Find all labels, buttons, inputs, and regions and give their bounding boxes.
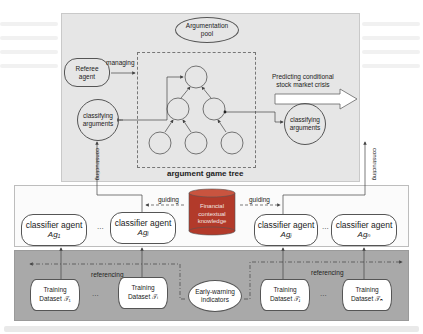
agent-id: Agⱼ <box>281 230 292 240</box>
dataset-line2: Dataset 𝒯₁ <box>39 295 70 302</box>
pool-line1: Argumentation <box>186 22 228 29</box>
pool-line2: pool <box>201 30 213 37</box>
indicators-line1: Early-warning <box>195 288 235 295</box>
referee-agent-node: Referee agent <box>64 58 110 87</box>
agent-title: classifier agent <box>336 220 393 230</box>
classifier-agent-n: classifier agent Agₙ <box>331 214 397 246</box>
agent-title: classifier agent <box>26 220 83 230</box>
dataset-line2: Dataset 𝒯ᵢ <box>128 293 158 300</box>
classifier-agent-1: classifier agent Ag₁ <box>21 214 87 246</box>
agent-title: classifier agent <box>258 220 315 230</box>
knowledge-line3: knowledge <box>198 218 227 224</box>
classifying-right-line2: arguments <box>290 124 321 131</box>
agent-ellipsis-left: ... <box>97 222 104 231</box>
argumentation-pool-node: Argumentation pool <box>175 17 239 43</box>
constructing-right-label: constructing <box>372 148 378 180</box>
dataset-line2: Dataset 𝒯ₙ <box>351 295 383 302</box>
training-dataset-1: Training Dataset 𝒯₁ <box>30 279 80 311</box>
tree-node <box>167 98 189 120</box>
guiding-left-label: guiding <box>158 196 179 204</box>
knowledge-line2: contextual <box>198 211 225 217</box>
dataset-line1: Training <box>43 286 66 293</box>
training-dataset-n: Training Dataset 𝒯ₙ <box>342 279 392 311</box>
dataset-ellipsis-right: ... <box>320 289 327 298</box>
agent-id: Agᵢ <box>138 228 149 238</box>
prediction-label: Predicting conditional stock market cris… <box>272 73 334 89</box>
referee-line2: agent <box>79 73 95 80</box>
agent-title: classifier agent <box>115 218 172 228</box>
training-dataset-i: Training Dataset 𝒯ᵢ <box>118 277 168 309</box>
guiding-right-label: guiding <box>249 196 270 204</box>
training-dataset-j: Training Dataset 𝒯ⱼ <box>260 279 310 311</box>
agent-id: Agₙ <box>358 230 371 240</box>
dataset-line1: Training <box>355 286 378 293</box>
tree-node <box>185 132 207 154</box>
managing-label: managing <box>106 59 135 67</box>
prediction-line1: Predicting conditional <box>272 73 334 80</box>
classifying-left-line2: arguments <box>83 120 114 127</box>
classifier-agent-i: classifier agent Agᵢ <box>110 212 176 244</box>
referee-line1: Referee <box>75 65 98 72</box>
agent-id: Ag₁ <box>48 230 60 240</box>
tree-node-root <box>185 66 207 88</box>
classifier-agent-j: classifier agent Agⱼ <box>254 214 318 246</box>
financial-knowledge-label: Financial contextual knowledge <box>191 203 233 226</box>
early-warning-indicators-node: Early-warning indicators <box>188 280 242 312</box>
referencing-right-label: referencing <box>311 269 344 277</box>
indicators-line2: indicators <box>201 296 229 303</box>
classifying-arguments-right-node: classifying arguments <box>284 103 326 145</box>
tree-node <box>221 132 243 154</box>
prediction-line2: stock market crisis <box>276 81 329 88</box>
tree-node <box>203 98 225 120</box>
constructing-left-label: constructing <box>95 148 101 180</box>
dataset-line1: Training <box>273 286 296 293</box>
tree-node <box>149 132 171 154</box>
knowledge-line1: Financial <box>200 203 224 209</box>
dataset-line1: Training <box>131 284 154 291</box>
classifying-left-line1: classifying <box>83 112 113 119</box>
classifying-right-line1: classifying <box>290 116 320 123</box>
classifying-arguments-left-node: classifying arguments <box>77 99 119 141</box>
agent-ellipsis-right: ... <box>322 222 329 231</box>
dataset-ellipsis-left: ... <box>92 289 99 298</box>
argument-game-tree-label: argument game tree <box>167 170 243 178</box>
dataset-line2: Dataset 𝒯ⱼ <box>270 295 300 302</box>
